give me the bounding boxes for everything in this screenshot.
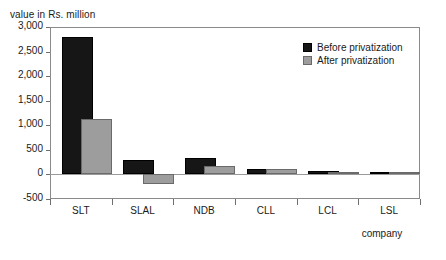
legend-item[interactable]: After privatization <box>303 55 403 66</box>
y-tick-label: 3,000 <box>18 20 43 31</box>
x-axis-label: LSL <box>358 205 420 216</box>
legend-item[interactable]: Before privatization <box>303 42 403 53</box>
bar-group <box>235 27 297 199</box>
x-axis-label: CLL <box>235 205 297 216</box>
legend-swatch-icon <box>303 43 312 52</box>
bar-after[interactable] <box>266 169 297 175</box>
bars <box>173 27 235 199</box>
bar-after[interactable] <box>328 172 359 174</box>
bar-before[interactable] <box>123 160 154 174</box>
legend-swatch-icon <box>303 56 312 65</box>
bar-after[interactable] <box>389 172 420 174</box>
x-axis-label: SLT <box>50 205 112 216</box>
x-axis-label: NDB <box>173 205 235 216</box>
legend-label: Before privatization <box>317 42 403 53</box>
x-axis-label: SLAL <box>112 205 174 216</box>
bar-chart: value in Rs. million 3,0002,5002,0001,50… <box>0 0 446 260</box>
x-tick-mark <box>420 199 421 205</box>
bars <box>112 27 174 199</box>
y-tick-label: 1,500 <box>18 94 43 105</box>
y-axis-title: value in Rs. million <box>10 9 95 20</box>
legend-label: After privatization <box>317 55 394 66</box>
bars <box>50 27 112 199</box>
x-axis-label: LCL <box>297 205 359 216</box>
bar-after[interactable] <box>143 174 174 184</box>
x-axis-title: company <box>50 228 420 239</box>
y-tick-label: -500 <box>23 192 43 203</box>
y-tick-label: 0 <box>37 167 43 178</box>
x-axis-title-text: company <box>362 228 403 239</box>
bars <box>235 27 297 199</box>
y-tick-label: 2,500 <box>18 45 43 56</box>
bar-group <box>173 27 235 199</box>
bar-group <box>112 27 174 199</box>
chart-legend: Before privatizationAfter privatization <box>303 42 403 68</box>
y-tick-label: 1,000 <box>18 118 43 129</box>
bar-after[interactable] <box>204 166 235 174</box>
bar-after[interactable] <box>81 119 112 174</box>
y-tick-label: 2,000 <box>18 69 43 80</box>
y-tick-label: 500 <box>26 143 43 154</box>
x-axis-labels: SLTSLALNDBCLLLCLLSL <box>50 205 420 216</box>
bar-group <box>50 27 112 199</box>
